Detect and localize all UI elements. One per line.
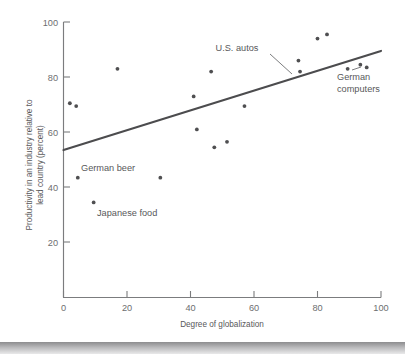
annotation-label-german-computers-line2: computers bbox=[337, 84, 380, 94]
annotation-label-us-autos: U.S. autos bbox=[216, 43, 259, 53]
y-tick-label-60: 60 bbox=[48, 128, 58, 138]
annotation-german-beer: German beer bbox=[81, 163, 135, 173]
y-tick-label-100: 100 bbox=[43, 18, 58, 28]
data-point bbox=[192, 94, 196, 98]
x-tick-label-60: 60 bbox=[249, 303, 259, 313]
x-tick-label-0: 0 bbox=[61, 303, 66, 313]
data-point bbox=[68, 101, 72, 105]
x-tick-label-80: 80 bbox=[312, 303, 322, 313]
y-axis-title-line2: lead country (percent) bbox=[36, 125, 45, 205]
data-point bbox=[92, 201, 96, 205]
data-point bbox=[158, 176, 162, 180]
data-point bbox=[298, 70, 302, 74]
data-point bbox=[76, 176, 80, 180]
annotation-label-japanese-food: Japanese food bbox=[97, 208, 157, 218]
data-point bbox=[74, 104, 78, 108]
y-tick-label-20: 20 bbox=[48, 238, 58, 248]
bottom-edge-bar bbox=[0, 342, 405, 354]
x-tick-label-40: 40 bbox=[185, 303, 195, 313]
data-point bbox=[297, 59, 301, 63]
data-point bbox=[243, 104, 247, 108]
data-point bbox=[116, 67, 120, 71]
data-point bbox=[365, 66, 369, 70]
y-tick-label-80: 80 bbox=[48, 73, 58, 83]
x-tick-label-100: 100 bbox=[373, 303, 388, 313]
data-point bbox=[316, 37, 320, 41]
annotation-label-german-beer: German beer bbox=[81, 163, 135, 173]
data-point bbox=[212, 145, 216, 149]
data-point bbox=[209, 70, 213, 74]
data-point bbox=[346, 67, 350, 71]
x-tick-label-20: 20 bbox=[122, 303, 132, 313]
x-axis-title: Degree of globalization bbox=[180, 320, 264, 329]
data-point bbox=[195, 128, 199, 132]
scatter-chart: 100 80 60 40 20 0 20 40 60 80 100 Degree… bbox=[0, 0, 405, 354]
y-tick-label-40: 40 bbox=[48, 183, 58, 193]
data-point bbox=[225, 140, 229, 144]
annotation-label-german-computers-line1: German bbox=[337, 72, 370, 82]
chart-background bbox=[0, 0, 405, 354]
y-axis-title-line1: Productivity in an industry relative to bbox=[25, 99, 34, 231]
data-point bbox=[325, 33, 329, 37]
data-point bbox=[358, 63, 362, 67]
annotation-japanese-food: Japanese food bbox=[97, 208, 157, 218]
